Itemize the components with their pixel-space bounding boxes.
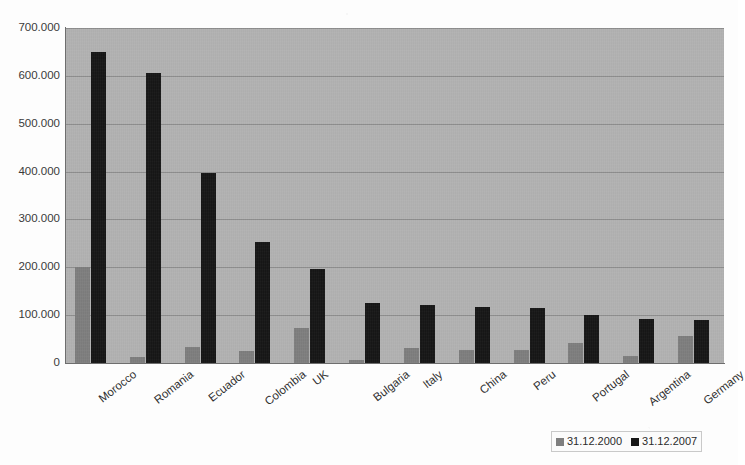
bar xyxy=(694,320,709,363)
y-axis-tick-label: 100.000 xyxy=(0,309,60,320)
bar xyxy=(420,305,435,363)
bar xyxy=(404,348,419,363)
bar xyxy=(584,315,599,363)
x-axis-category-label: Germany xyxy=(701,368,745,407)
chart-legend: 31.12.200031.12.2007 xyxy=(551,431,702,452)
y-axis-tick-label: 600.000 xyxy=(0,70,60,81)
bar-group xyxy=(514,28,545,363)
x-axis-category-label: Italy xyxy=(421,368,445,390)
bar-group xyxy=(623,28,654,363)
plot-area xyxy=(66,28,724,363)
bar xyxy=(239,351,254,363)
bar-group xyxy=(294,28,325,363)
bar-group xyxy=(404,28,435,363)
y-axis-tick-label: 500.000 xyxy=(0,118,60,129)
x-axis-category-label: Colombia xyxy=(262,368,308,407)
y-axis-line xyxy=(65,27,66,364)
x-axis-category-label: Morocco xyxy=(97,368,139,405)
y-axis-tick-label: 200.000 xyxy=(0,261,60,272)
bar xyxy=(91,52,106,363)
x-axis-category-label: Romania xyxy=(152,368,196,406)
x-axis-category-label: China xyxy=(478,368,509,396)
bar xyxy=(678,336,693,363)
y-axis-tick-label: 400.000 xyxy=(0,166,60,177)
legend-swatch xyxy=(631,438,639,446)
bar xyxy=(294,328,309,363)
legend-item: 31.12.2007 xyxy=(631,436,697,447)
bar-group xyxy=(678,28,709,363)
bar-group xyxy=(75,28,106,363)
bar-group xyxy=(185,28,216,363)
bar xyxy=(623,356,638,363)
x-axis-category-label: Portugal xyxy=(590,368,631,404)
y-axis-tick-label: 700.000 xyxy=(0,22,60,33)
legend-item: 31.12.2000 xyxy=(556,436,622,447)
bar-group xyxy=(459,28,490,363)
x-axis-category-label: Argentina xyxy=(646,368,692,408)
bar xyxy=(514,350,529,363)
x-axis-category-label: Peru xyxy=(531,368,558,392)
bar xyxy=(201,173,216,363)
bar-group xyxy=(239,28,270,363)
bar xyxy=(146,73,161,363)
bar xyxy=(75,267,90,363)
bar xyxy=(568,343,583,363)
bar xyxy=(310,269,325,363)
bar-group xyxy=(130,28,161,363)
legend-label: 31.12.2000 xyxy=(567,436,622,447)
bar xyxy=(530,308,545,363)
bar xyxy=(185,347,200,363)
legend-label: 31.12.2007 xyxy=(642,436,697,447)
bar xyxy=(365,303,380,363)
x-axis-category-labels: MoroccoRomaniaEcuadorColombiaUKBulgariaI… xyxy=(0,363,738,433)
y-axis-tick-label: 300.000 xyxy=(0,213,60,224)
bar xyxy=(475,307,490,363)
bar xyxy=(459,350,474,363)
x-axis-category-label: Bulgaria xyxy=(371,368,412,403)
legend-swatch xyxy=(556,438,564,446)
bar xyxy=(639,319,654,363)
bar-group xyxy=(349,28,380,363)
bar xyxy=(255,242,270,363)
bar-group xyxy=(568,28,599,363)
x-axis-category-label: Ecuador xyxy=(206,368,247,404)
x-axis-category-label: UK xyxy=(310,368,330,387)
